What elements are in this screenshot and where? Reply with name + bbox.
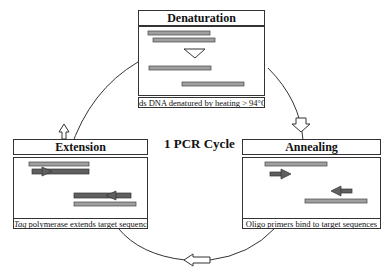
left-arrow-icon: [184, 254, 210, 266]
denaturation-title: Denaturation: [138, 10, 265, 26]
denaturation-strands: [139, 27, 264, 95]
up-arrow-icon: [59, 124, 69, 139]
annealing-title: Annealing: [242, 139, 381, 155]
extension-caption: Taq polymerase extends target sequences: [13, 218, 148, 229]
extension-title: Extension: [13, 139, 148, 155]
annealing-panel: [242, 157, 381, 219]
down-arrow-icon: [292, 118, 310, 132]
cycle-label: 1 PCR Cycle: [164, 136, 235, 152]
extension-strands: [14, 158, 147, 218]
down-arrow-icon: [184, 49, 205, 58]
denaturation-panel: [138, 26, 265, 96]
annealing-strands: [243, 158, 380, 218]
annealing-caption: Oligo primers bind to target sequences: [242, 218, 381, 229]
taq-label: Taq: [14, 219, 26, 229]
extension-panel: [13, 157, 148, 219]
denaturation-caption: ds DNA denatured by heating > 94°C: [138, 97, 265, 108]
extension-caption-text: polymerase extends target sequences: [26, 219, 148, 229]
